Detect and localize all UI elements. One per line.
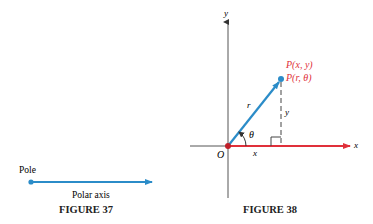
- figures-canvas: [0, 0, 373, 224]
- pole-label: Pole: [19, 166, 36, 176]
- r-label: r: [247, 101, 251, 110]
- figure-38-caption: FIGURE 38: [243, 205, 297, 216]
- polar-axis-label: Polar axis: [72, 191, 110, 201]
- point-p: [278, 76, 284, 82]
- theta-label: θ: [249, 130, 254, 140]
- figure-37-polar-axis: [28, 179, 152, 184]
- origin-label: O: [217, 150, 224, 160]
- origin-dot: [225, 143, 231, 149]
- figure-37-caption: FIGURE 37: [59, 205, 113, 216]
- point-label-polar: P(r, θ): [286, 73, 311, 83]
- x-axis-label: x: [354, 141, 358, 150]
- right-angle-mark: [271, 137, 281, 146]
- pole-dot: [28, 179, 33, 184]
- x-segment-label: x: [253, 149, 257, 158]
- figure-38-coordinate-system: [190, 22, 350, 198]
- point-label-cartesian: P(x, y): [286, 60, 313, 70]
- y-axis-label: y: [224, 9, 228, 18]
- theta-arc: [239, 132, 246, 146]
- y-segment-label: y: [285, 108, 289, 117]
